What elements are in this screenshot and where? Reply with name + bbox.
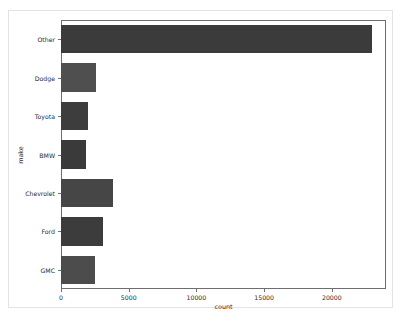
x-tick-mark <box>61 289 62 292</box>
bar <box>61 217 103 245</box>
bar <box>61 102 88 130</box>
x-tick-label: 20000 <box>322 294 342 301</box>
x-axis-label: count <box>61 303 386 311</box>
y-tick-mark <box>58 78 61 79</box>
plot-area: OtherDodgeToyotaBMWChevroletFordGMC05000… <box>61 20 386 289</box>
bar <box>61 256 95 284</box>
y-tick-mark <box>58 193 61 194</box>
y-tick-label: Toyota <box>35 113 55 120</box>
y-axis-label-text: make <box>17 146 25 164</box>
bar <box>61 63 96 91</box>
y-tick-label: Other <box>37 36 55 43</box>
y-tick-label: Dodge <box>35 74 55 81</box>
x-tick-mark <box>264 289 265 292</box>
y-tick-label: BMW <box>39 151 55 158</box>
y-tick-mark <box>58 155 61 156</box>
y-tick-mark <box>58 116 61 117</box>
bar <box>61 179 113 207</box>
bar <box>61 140 86 168</box>
x-tick-label: 10000 <box>187 294 207 301</box>
chart-figure: make OtherDodgeToyotaBMWChevroletFordGMC… <box>8 10 393 308</box>
bars-layer: OtherDodgeToyotaBMWChevroletFordGMC05000… <box>61 20 386 289</box>
x-tick-label: 0 <box>59 294 63 301</box>
x-tick-label: 15000 <box>254 294 274 301</box>
y-axis-label: make <box>15 20 27 289</box>
y-tick-label: GMC <box>41 266 55 273</box>
y-tick-label: Ford <box>42 228 56 235</box>
x-tick-mark <box>129 289 130 292</box>
x-tick-mark <box>196 289 197 292</box>
bar <box>61 25 372 53</box>
x-tick-label: 5000 <box>121 294 137 301</box>
y-tick-mark <box>58 39 61 40</box>
y-tick-mark <box>58 231 61 232</box>
x-tick-mark <box>332 289 333 292</box>
y-tick-label: Chevrolet <box>25 189 55 196</box>
y-tick-mark <box>58 270 61 271</box>
